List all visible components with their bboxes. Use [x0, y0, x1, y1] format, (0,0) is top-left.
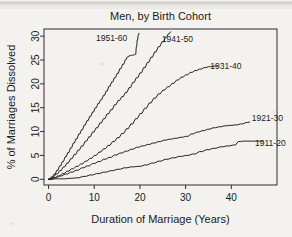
- y-axis-label: % of Marriages Dissolved: [5, 45, 17, 170]
- chart-figure: 010203040051015202530Duration of Marriag…: [0, 0, 292, 237]
- scan-speck: [100, 62, 104, 66]
- y-axis-tick-label: 0: [31, 176, 42, 182]
- chart-title: Men, by Birth Cohort: [110, 10, 211, 22]
- x-axis-tick-label: 0: [46, 192, 52, 203]
- series-line-1951-60: [49, 33, 139, 179]
- y-axis-tick-label: 20: [31, 78, 42, 90]
- y-axis-tick-label: 5: [31, 152, 42, 158]
- y-axis-tick-label: 30: [31, 30, 42, 42]
- x-axis-tick-label: 20: [134, 192, 146, 203]
- scan-speck: [272, 110, 275, 113]
- x-axis-tick-label: 10: [89, 192, 101, 203]
- x-axis-tick-label: 40: [226, 192, 238, 203]
- series-label-1921-30: 1921-30: [252, 113, 283, 123]
- series-line-1921-30: [49, 122, 250, 179]
- series-label-1951-60: 1951-60: [96, 33, 127, 43]
- y-axis-tick-label: 10: [31, 126, 42, 138]
- chart-canvas: 010203040051015202530Duration of Marriag…: [0, 0, 292, 237]
- series-label-1911-20: 1911-20: [255, 138, 286, 148]
- x-axis-label: Duration of Marriage (Years): [91, 213, 229, 225]
- series-label-1931-40: 1931-40: [210, 61, 241, 71]
- series-label-1941-50: 1941-50: [162, 34, 193, 44]
- y-axis-tick-label: 15: [31, 102, 42, 114]
- x-axis-tick-label: 30: [180, 192, 192, 203]
- scan-speck: [10, 222, 15, 225]
- y-axis-tick-label: 25: [31, 54, 42, 66]
